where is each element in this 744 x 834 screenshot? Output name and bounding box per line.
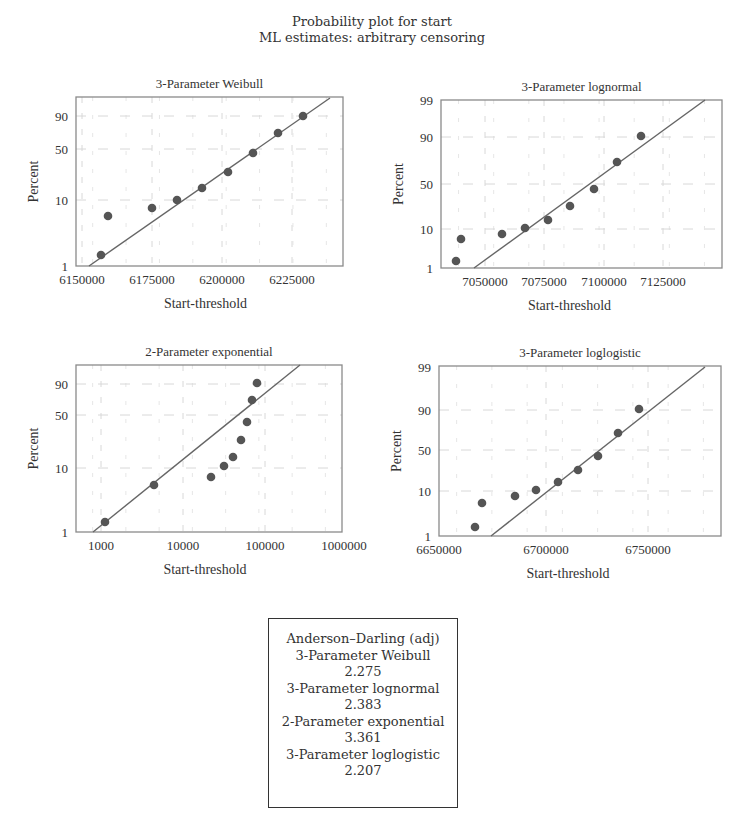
plot-title: 3-Parameter Weibull [156, 76, 264, 91]
y-axis-label: Percent [389, 430, 404, 472]
data-point [249, 149, 258, 158]
x-tick-label: 1000 [88, 538, 114, 553]
data-point [243, 418, 252, 427]
x-tick-label: 7050000 [462, 274, 508, 289]
data-point [590, 185, 599, 194]
data-point [471, 523, 480, 532]
data-point [150, 481, 159, 490]
data-point [554, 478, 563, 487]
data-point [173, 196, 182, 205]
data-point [148, 204, 157, 213]
data-point [613, 158, 622, 167]
y-tick-label: 50 [55, 142, 68, 157]
x-tick-label: 1000000 [321, 538, 367, 553]
fit-line [93, 365, 300, 532]
plot-title: 3-Parameter loglogistic [519, 345, 641, 360]
plot-frame [76, 365, 342, 532]
x-tick-label: 6225000 [269, 272, 315, 287]
data-point [101, 518, 110, 527]
y-axis-label: Percent [391, 163, 406, 205]
y-tick-label: 1 [427, 261, 434, 276]
y-tick-label: 99 [420, 93, 433, 108]
data-point [478, 499, 487, 508]
y-tick-label: 99 [418, 360, 431, 375]
data-point [637, 132, 646, 141]
ad-name-weibull: 3-Parameter Weibull [269, 648, 457, 665]
data-point [229, 453, 238, 462]
data-point [532, 486, 541, 495]
ad-name-lognormal: 3-Parameter lognormal [269, 681, 457, 698]
plot-exponential: 2-Parameter exponential11050901000100001… [26, 344, 367, 577]
y-tick-label: 10 [55, 193, 68, 208]
data-point [274, 129, 283, 138]
data-point [207, 473, 216, 482]
y-tick-label: 50 [420, 177, 433, 192]
x-tick-label: 100000 [246, 538, 285, 553]
data-point [498, 230, 507, 239]
y-tick-label: 1 [62, 525, 69, 540]
ad-value-exponential: 3.361 [269, 730, 457, 747]
x-tick-label: 6650000 [416, 542, 462, 557]
data-point [248, 396, 257, 405]
data-point [521, 224, 530, 233]
data-point [253, 379, 262, 388]
data-point [594, 452, 603, 461]
data-point [614, 429, 623, 438]
ad-name-loglogistic: 3-Parameter loglogistic [269, 747, 457, 764]
data-point [104, 212, 113, 221]
y-tick-label: 10 [55, 461, 68, 476]
data-point [635, 405, 644, 414]
data-point [452, 257, 461, 266]
data-point [198, 184, 207, 193]
x-tick-label: 7125000 [640, 274, 686, 289]
plot-title: 3-Parameter lognormal [521, 79, 642, 94]
data-point [237, 436, 246, 445]
ad-header: Anderson–Darling (adj) [269, 631, 457, 648]
data-point [224, 168, 233, 177]
x-axis-label: Start-threshold [528, 298, 611, 313]
x-tick-label: 6700000 [523, 542, 569, 557]
data-point [574, 466, 583, 475]
data-point [566, 202, 575, 211]
x-tick-label: 6200000 [199, 272, 245, 287]
ad-value-weibull: 2.275 [269, 664, 457, 681]
x-tick-label: 6175000 [129, 272, 175, 287]
fit-line [89, 98, 330, 266]
data-point [299, 112, 308, 121]
anderson-darling-legend: Anderson–Darling (adj) 3-Parameter Weibu… [268, 618, 458, 808]
plot-weibull: 3-Parameter Weibull110509061500006175000… [26, 76, 343, 311]
y-tick-label: 50 [418, 443, 431, 458]
x-tick-label: 6750000 [625, 542, 671, 557]
data-point [544, 216, 553, 225]
x-tick-label: 7075000 [521, 274, 567, 289]
ad-name-exponential: 2-Parameter exponential [269, 714, 457, 731]
y-tick-label: 50 [55, 408, 68, 423]
plot-lognormal: 3-Parameter lognormal1105090997050000707… [391, 79, 722, 313]
data-point [511, 492, 520, 501]
x-axis-label: Start-threshold [163, 562, 246, 577]
data-point [220, 462, 229, 471]
data-point [97, 251, 106, 260]
y-tick-label: 90 [420, 130, 433, 145]
plot-frame [439, 366, 721, 536]
plot-loglogistic: 3-Parameter loglogistic11050909966500006… [389, 345, 721, 581]
y-tick-label: 10 [418, 484, 431, 499]
x-tick-label: 7100000 [581, 274, 627, 289]
y-tick-label: 90 [418, 403, 431, 418]
ad-value-loglogistic: 2.207 [269, 763, 457, 780]
x-axis-label: Start-threshold [526, 566, 609, 581]
ad-value-lognormal: 2.383 [269, 697, 457, 714]
y-axis-label: Percent [26, 427, 41, 469]
data-point [457, 235, 466, 244]
y-axis-label: Percent [26, 160, 41, 202]
x-tick-label: 6150000 [59, 272, 105, 287]
y-tick-label: 90 [55, 109, 68, 124]
y-tick-label: 10 [420, 222, 433, 237]
x-tick-label: 10000 [167, 538, 200, 553]
plot-title: 2-Parameter exponential [145, 344, 273, 359]
y-tick-label: 90 [55, 377, 68, 392]
x-axis-label: Start-threshold [164, 296, 247, 311]
